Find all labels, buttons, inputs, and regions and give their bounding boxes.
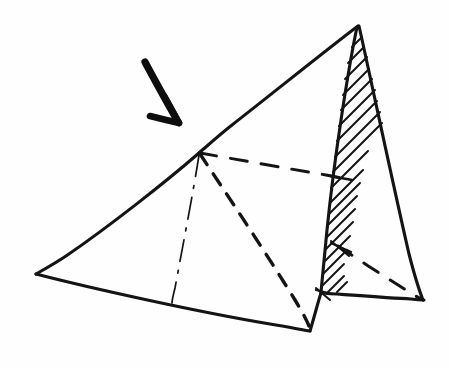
paper-background: [0, 0, 449, 368]
sketch-figure-canvas: [0, 0, 449, 368]
pyramid-cross-section-sketch: [0, 0, 449, 368]
